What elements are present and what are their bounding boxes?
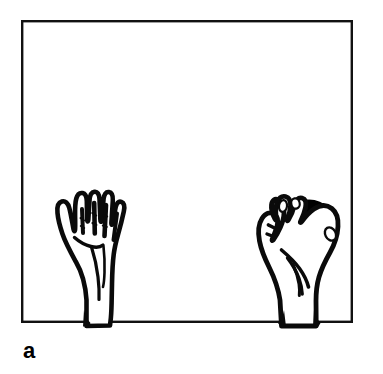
left-hand-finger-joint-3 (105, 205, 107, 236)
right-hand-knuckle-2 (267, 234, 274, 237)
figure-panel: a (0, 0, 383, 374)
left-hand-finger-joint-1 (82, 209, 83, 233)
left-hand-finger-joint-2 (94, 203, 95, 234)
right-hand-fingertip-highlight-2 (278, 200, 288, 213)
line-art-illustration (0, 0, 383, 374)
panel-label: a (23, 338, 35, 364)
right-hand-fingertip-highlight-1 (290, 198, 300, 210)
